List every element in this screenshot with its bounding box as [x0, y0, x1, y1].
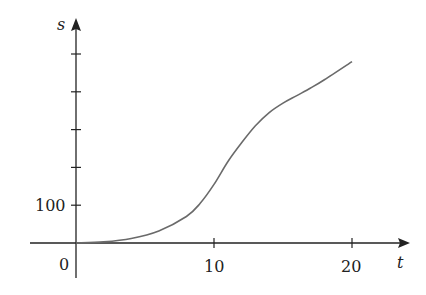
axes	[30, 18, 410, 278]
ticks	[71, 54, 352, 248]
x-tick-label-20: 20	[341, 257, 361, 276]
x-axis-label: t	[397, 253, 404, 272]
chart: s t 0 100 10 20	[0, 0, 426, 295]
y-axis-label: s	[57, 15, 65, 34]
data-curve	[76, 62, 352, 243]
y-tick-label-100: 100	[35, 196, 66, 215]
origin-label: 0	[59, 255, 69, 274]
x-tick-label-10: 10	[204, 257, 224, 276]
